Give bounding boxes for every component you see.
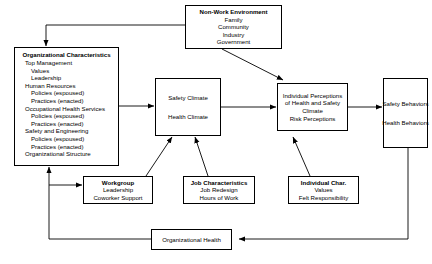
climate-safety-label: Safety Climate	[168, 94, 208, 102]
node-organizational-health[interactable]: Organizational Health	[151, 229, 232, 250]
org-char-item-hr-practices: Practices (enacted)	[19, 97, 84, 105]
individual-char-item-values: Values	[314, 186, 332, 194]
behaviors-health-label: Health Behaviors	[382, 119, 428, 127]
climate-health-label: Health Climate	[168, 113, 208, 121]
workgroup-item-leadership: Leadership	[103, 186, 133, 194]
org-char-item-top-management: Top Management	[19, 59, 72, 67]
edge-nonwork-to-orgchar	[46, 25, 185, 46]
perceptions-line-1: Individual Perceptions	[283, 92, 343, 100]
node-individual-characteristics[interactable]: Individual Char. Values Felt Responsibil…	[288, 176, 359, 204]
org-health-title: Organizational Health	[162, 236, 221, 244]
non-work-item-family: Family	[225, 16, 243, 24]
node-safety-health-climate[interactable]: Safety Climate Health Climate	[155, 78, 221, 136]
job-char-title: Job Characteristics	[191, 179, 248, 187]
organizational-health-diagram: Non-Work Environment Family Community In…	[0, 0, 432, 264]
non-work-item-industry: Industry	[223, 31, 245, 39]
org-char-item-hr-policies: Policies (espoused)	[19, 89, 84, 97]
edge-nonwork-to-perceptions	[222, 49, 283, 80]
node-individual-perceptions[interactable]: Individual Perceptions of Health and Saf…	[277, 83, 348, 131]
node-non-work-environment[interactable]: Non-Work Environment Family Community In…	[185, 5, 282, 49]
edge-workgroup-to-climate	[146, 137, 172, 176]
perceptions-risk-label: Risk Perceptions	[290, 115, 336, 123]
org-char-title: Organizational Characteristics	[22, 51, 110, 59]
job-char-item-job-redesign: Job Redesign	[200, 186, 237, 194]
workgroup-item-coworker-support: Coworker Support	[93, 194, 142, 202]
org-char-item-safety-policies: Policies (espoused)	[19, 135, 84, 143]
org-char-item-human-resources: Human Resources	[19, 82, 75, 90]
behaviors-safety-label: Safety Behaviors	[382, 100, 428, 108]
edge-jobchar-to-climate	[195, 137, 208, 176]
perceptions-line-2: of Health and Safety	[285, 99, 340, 107]
node-organizational-characteristics[interactable]: Organizational Characteristics Top Manag…	[14, 47, 119, 166]
non-work-item-community: Community	[218, 23, 249, 31]
org-char-item-values: Values	[19, 67, 49, 75]
non-work-item-government: Government	[217, 38, 251, 46]
perceptions-line-3: Climate	[302, 107, 323, 115]
org-char-item-ohs-policies: Policies (espoused)	[19, 112, 84, 120]
non-work-title: Non-Work Environment	[200, 8, 268, 16]
org-char-item-leadership: Leadership	[19, 74, 61, 82]
org-char-item-safety-practices: Practices (enacted)	[19, 143, 84, 151]
edge-individualchar-to-perceptions	[293, 137, 310, 176]
org-char-item-organizational-structure: Organizational Structure	[19, 150, 91, 158]
individual-char-title: Individual Char.	[301, 179, 346, 187]
job-char-item-hours-of-work: Hours of Work	[200, 194, 239, 202]
individual-char-item-felt-responsibility: Felt Responsibility	[299, 194, 348, 202]
org-char-item-ohs-practices: Practices (enacted)	[19, 120, 84, 128]
node-safety-health-behaviors[interactable]: Safety Behaviors Health Behaviors	[383, 78, 428, 148]
node-job-characteristics[interactable]: Job Characteristics Job Redesign Hours o…	[183, 176, 255, 204]
node-workgroup[interactable]: Workgroup Leadership Coworker Support	[83, 176, 153, 204]
org-char-item-safety-and-engineering: Safety and Engineering	[19, 127, 88, 135]
workgroup-title: Workgroup	[102, 179, 134, 187]
org-char-item-occupational-health-services: Occupational Health Services	[19, 105, 105, 113]
